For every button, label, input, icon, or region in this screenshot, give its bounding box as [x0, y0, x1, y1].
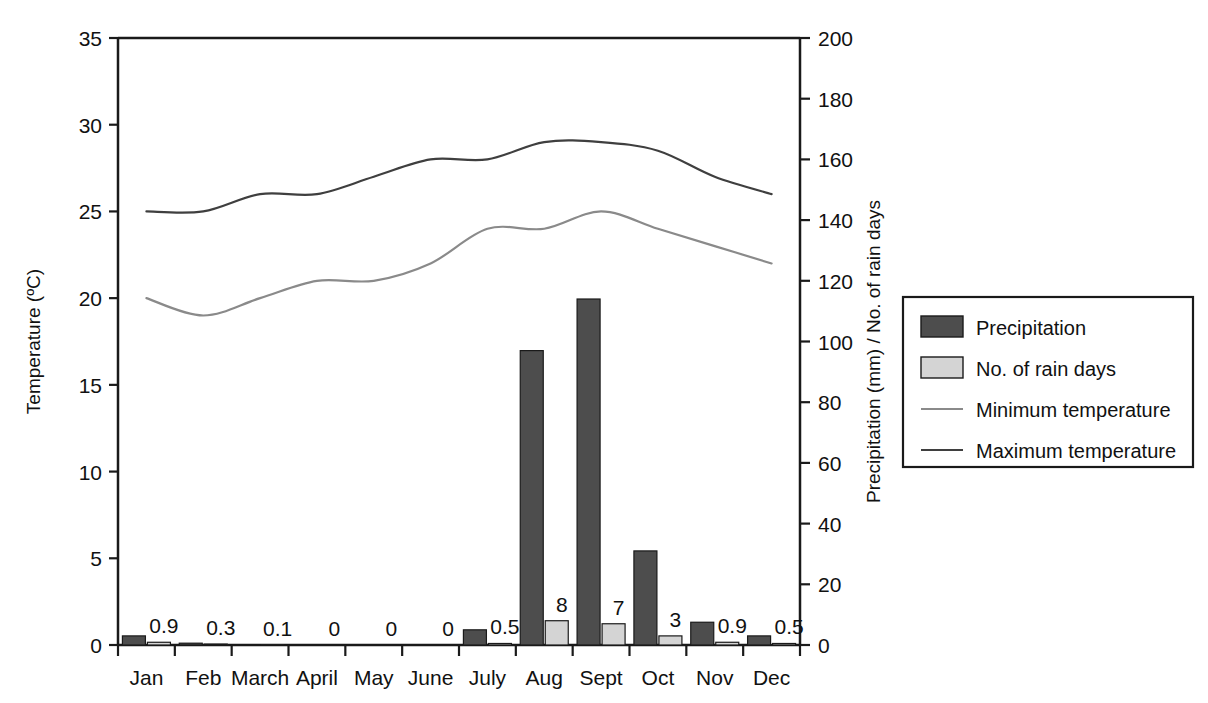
left-axis-tick-label: 30	[79, 114, 102, 137]
x-axis-month-label: April	[296, 666, 338, 689]
rain-days-bar	[545, 621, 568, 645]
rain-days-bar	[773, 643, 796, 645]
x-axis-month-label: Aug	[526, 666, 563, 689]
precipitation-bar	[520, 351, 543, 645]
rain-days-data-label: 8	[556, 593, 568, 616]
rain-days-data-label: 0	[329, 617, 341, 640]
right-axis-tick-label: 60	[818, 452, 841, 475]
rain-days-bar	[147, 642, 170, 645]
precipitation-bar	[748, 636, 771, 645]
rain-days-data-label: 0.5	[490, 615, 519, 638]
legend-swatch	[921, 316, 963, 337]
rain-days-bar	[488, 643, 511, 645]
right-axis-tick-label: 20	[818, 573, 841, 596]
left-axis-tick-label: 35	[79, 27, 102, 50]
x-axis-month-label: Oct	[642, 666, 675, 689]
right-axis-tick-label: 40	[818, 513, 841, 536]
right-axis-tick-label: 120	[818, 270, 853, 293]
left-axis-title: Temperature (ºC)	[23, 269, 44, 414]
precipitation-bar	[577, 299, 600, 645]
legend-label: Minimum temperature	[976, 399, 1171, 421]
rain-days-bar	[659, 636, 682, 645]
right-axis-tick-label: 80	[818, 391, 841, 414]
legend-swatch	[921, 357, 963, 378]
right-axis-tick-label: 180	[818, 88, 853, 111]
min-temperature-line	[146, 211, 771, 315]
legend: PrecipitationNo. of rain daysMinimum tem…	[903, 297, 1193, 467]
rain-days-data-label: 0	[442, 617, 454, 640]
rain-days-bar	[204, 644, 227, 645]
legend-label: Precipitation	[976, 317, 1086, 339]
left-axis-tick-label: 10	[79, 461, 102, 484]
right-axis-title: Precipitation (mm) / No. of rain days	[863, 200, 884, 503]
x-axis-month-label: Nov	[696, 666, 734, 689]
rain-days-data-label: 0.9	[149, 614, 178, 637]
x-axis-month-label: Sept	[579, 666, 622, 689]
precipitation-bar	[122, 636, 145, 645]
right-axis-tick-label: 140	[818, 209, 853, 232]
x-axis-month-label: June	[408, 666, 454, 689]
x-axis-month-label: Jan	[129, 666, 163, 689]
x-axis-month-label: Dec	[753, 666, 790, 689]
rain-days-data-label: 0.3	[206, 616, 235, 639]
right-axis-tick-label: 160	[818, 148, 853, 171]
precipitation-bar	[634, 551, 657, 645]
left-axis-tick-label: 5	[90, 547, 102, 570]
climate-chart: 0510152025303502040608010012014016018020…	[0, 0, 1208, 703]
precipitation-bar	[463, 630, 486, 645]
rain-days-data-label: 7	[613, 596, 625, 619]
right-axis-tick-label: 200	[818, 27, 853, 50]
x-axis-month-label: March	[231, 666, 289, 689]
precipitation-bar	[179, 643, 202, 645]
rain-days-bar	[716, 642, 739, 645]
precipitation-bars	[122, 299, 770, 645]
precipitation-bar	[691, 622, 714, 645]
rain-days-data-label: 0	[385, 617, 397, 640]
rain-days-data-label: 0.9	[718, 614, 747, 637]
left-axis-tick-label: 20	[79, 287, 102, 310]
rain-days-data-label: 0.5	[774, 615, 803, 638]
legend-label: No. of rain days	[976, 358, 1116, 380]
x-axis-month-label: May	[354, 666, 394, 689]
rain-days-bar	[602, 624, 625, 645]
x-axis-month-label: Feb	[185, 666, 221, 689]
left-axis-tick-label: 15	[79, 374, 102, 397]
legend-label: Maximum temperature	[976, 440, 1176, 462]
left-axis-tick-label: 25	[79, 200, 102, 223]
rain-days-data-label: 3	[670, 608, 682, 631]
rain-days-data-label: 0.1	[263, 617, 292, 640]
x-axis-month-label: July	[469, 666, 507, 689]
right-axis-tick-label: 0	[818, 634, 830, 657]
max-temperature-line	[146, 140, 771, 212]
right-axis-tick-label: 100	[818, 331, 853, 354]
left-axis-tick-label: 0	[90, 634, 102, 657]
